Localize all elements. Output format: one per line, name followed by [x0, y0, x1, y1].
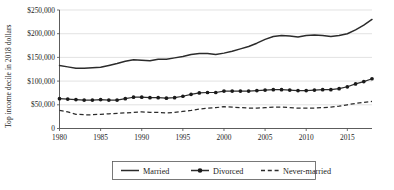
legend-label: Never-married: [283, 167, 331, 176]
y-axis-title-label: Top income decile in 2018 dollars: [4, 25, 13, 128]
series-marker-divorced: [362, 80, 366, 84]
series-group-never-married: [60, 101, 373, 114]
income-decile-line-chart: Top income decile in 2018 dollars 0$50,0…: [0, 0, 394, 190]
series-marker-divorced: [288, 88, 292, 92]
x-tick-label: 2010: [299, 133, 314, 142]
series-marker-divorced: [329, 88, 333, 92]
y-tick-label: $50,000: [31, 100, 55, 109]
series-marker-divorced: [99, 98, 103, 102]
series-line-married: [60, 19, 373, 68]
y-tick-label: $150,000: [27, 53, 55, 62]
series-marker-divorced: [148, 96, 152, 100]
x-tick-label: 1990: [134, 133, 149, 142]
series-marker-divorced: [337, 87, 341, 91]
series-marker-divorced: [197, 91, 201, 95]
series-marker-divorced: [263, 88, 267, 92]
series-marker-divorced: [115, 98, 119, 102]
chart-canvas: Top income decile in 2018 dollars 0$50,0…: [0, 0, 394, 190]
series-marker-divorced: [214, 91, 218, 95]
series-marker-divorced: [165, 96, 169, 100]
x-tick-label: 2000: [217, 133, 232, 142]
series-marker-divorced: [230, 89, 234, 93]
series-marker-divorced: [345, 85, 349, 89]
series-marker-divorced: [296, 89, 300, 93]
series-marker-divorced: [181, 94, 185, 98]
series-marker-divorced: [107, 98, 111, 102]
series-marker-divorced: [222, 89, 226, 93]
gridlines: [57, 10, 372, 129]
series-group-divorced: [58, 77, 374, 102]
series-group-married: [60, 19, 373, 68]
series-marker-divorced: [91, 98, 95, 102]
x-tick-label: 2005: [258, 133, 273, 142]
series-marker-divorced: [66, 97, 70, 101]
legend-label: Divorced: [213, 167, 243, 176]
chart-legend: MarriedDivorcedNever-married: [113, 162, 332, 180]
series-marker-divorced: [354, 82, 358, 86]
y-axis-title: Top income decile in 2018 dollars: [4, 25, 13, 128]
series-marker-divorced: [132, 95, 136, 99]
series-marker-divorced: [247, 89, 251, 93]
x-tick-label: 1980: [52, 133, 67, 142]
series-marker-divorced: [58, 97, 62, 101]
legend-marker-divorced: [198, 168, 203, 173]
x-tick-label: 2015: [340, 133, 355, 142]
series-marker-divorced: [370, 77, 374, 81]
series-marker-divorced: [280, 88, 284, 92]
series-line-divorced: [60, 79, 373, 100]
series-marker-divorced: [74, 98, 78, 102]
y-tick-label: $250,000: [27, 6, 55, 15]
series-marker-divorced: [173, 96, 177, 100]
series-marker-divorced: [140, 95, 144, 99]
series-marker-divorced: [123, 97, 127, 101]
series-marker-divorced: [156, 96, 160, 100]
series-marker-divorced: [271, 88, 275, 92]
series-marker-divorced: [304, 89, 308, 93]
legend-label: Married: [143, 167, 169, 176]
series-marker-divorced: [206, 91, 210, 95]
series-marker-divorced: [321, 88, 325, 92]
x-axis-tick-labels: 19801985199019952000200520102015: [52, 133, 355, 142]
x-tick-label: 1995: [175, 133, 190, 142]
series-marker-divorced: [313, 88, 317, 92]
series-marker-divorced: [255, 89, 259, 93]
y-tick-label: $100,000: [27, 77, 55, 86]
legend-items: MarriedDivorcedNever-married: [121, 167, 331, 176]
series-line-never-married: [60, 101, 373, 114]
series-marker-divorced: [189, 93, 193, 97]
y-tick-label: $200,000: [27, 29, 55, 38]
y-axis-tick-labels: 0$50,000$100,000$150,000$200,000$250,000: [27, 6, 55, 134]
x-tick-label: 1985: [93, 133, 108, 142]
series-marker-divorced: [82, 98, 86, 102]
series-marker-divorced: [239, 89, 243, 93]
